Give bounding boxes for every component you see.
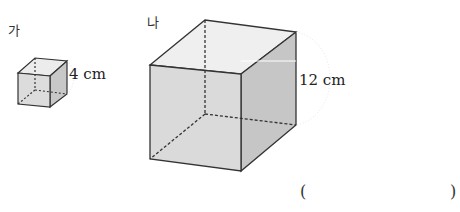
large-cube bbox=[150, 20, 330, 171]
edge-length-ga: 4 cm bbox=[69, 65, 106, 83]
edge-length-na: 12 cm bbox=[299, 71, 345, 89]
answer-blank[interactable] bbox=[312, 182, 447, 202]
cube-diagrams bbox=[0, 0, 460, 212]
answer-open-paren: ( bbox=[300, 182, 306, 201]
small-cube bbox=[18, 58, 74, 107]
answer-close-paren: ) bbox=[450, 182, 456, 201]
